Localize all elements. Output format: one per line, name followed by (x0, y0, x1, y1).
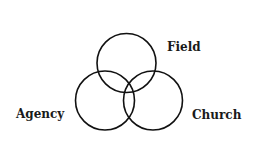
circle-agency (76, 71, 135, 130)
circle-church (124, 71, 183, 130)
label-church: Church (192, 108, 241, 122)
label-field: Field (167, 40, 201, 54)
label-agency: Agency (16, 107, 64, 121)
circle-field (97, 34, 156, 93)
